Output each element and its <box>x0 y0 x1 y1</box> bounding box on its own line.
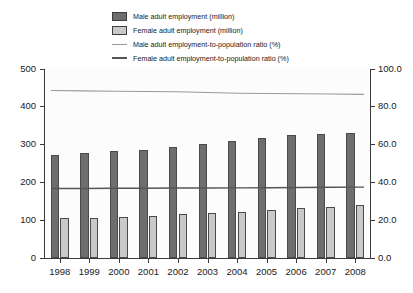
y2-tick-label-20.0: 20.0 <box>378 215 413 225</box>
lines-layer <box>45 69 370 258</box>
y2-tick-label-100.0: 100.0 <box>378 64 413 74</box>
y2-tick-20.0 <box>371 220 375 221</box>
y2-tick-80.0 <box>371 106 375 107</box>
y2-tick-100.0 <box>371 69 375 70</box>
y2-tick-label-80.0: 80.0 <box>378 101 413 111</box>
y-tick-400 <box>40 106 44 107</box>
line-male-ratio <box>51 91 364 95</box>
legend-item-female-ratio: Female adult employment-to-population ra… <box>112 52 289 64</box>
y2-tick-label-40.0: 40.0 <box>378 177 413 187</box>
y-tick-0 <box>40 258 44 259</box>
y-tick-label-500: 500 <box>2 64 36 74</box>
legend-label-female-employment: Female adult employment (million) <box>133 26 243 35</box>
y2-tick-label-0.0: 0.0 <box>378 253 413 263</box>
legend-swatch-male-employment <box>112 12 127 21</box>
axis-left-spine <box>44 69 45 259</box>
legend-item-male-employment: Male adult employment (million) <box>112 10 289 22</box>
x-tick-2002 <box>178 259 179 263</box>
y2-tick-0.0 <box>371 258 375 259</box>
axis-right-spine <box>370 69 371 259</box>
legend-label-male-ratio: Male adult employment-to-population rati… <box>133 40 280 49</box>
legend-line-female-ratio <box>112 54 127 63</box>
y-tick-100 <box>40 220 44 221</box>
x-tick-1998 <box>60 259 61 263</box>
legend-label-male-employment: Male adult employment (million) <box>133 12 234 21</box>
legend-item-male-ratio: Male adult employment-to-population rati… <box>112 38 289 50</box>
chart-legend: Male adult employment (million) Female a… <box>112 10 289 64</box>
x-tick-2007 <box>326 259 327 263</box>
x-tick-label-2008: 2008 <box>338 266 372 277</box>
x-tick-2005 <box>267 259 268 263</box>
chart-figure: Male adult employment (million) Female a… <box>0 0 413 293</box>
x-tick-1999 <box>89 259 90 263</box>
y-tick-label-0: 0 <box>2 253 36 263</box>
legend-line-male-ratio <box>112 40 127 49</box>
y2-tick-40.0 <box>371 182 375 183</box>
y-tick-500 <box>40 69 44 70</box>
y2-tick-60.0 <box>371 144 375 145</box>
y-tick-200 <box>40 182 44 183</box>
y-tick-label-100: 100 <box>2 215 36 225</box>
line-female-ratio <box>51 187 364 188</box>
x-tick-2003 <box>208 259 209 263</box>
x-tick-2008 <box>355 259 356 263</box>
y-tick-label-200: 200 <box>2 177 36 187</box>
legend-item-female-employment: Female adult employment (million) <box>112 24 289 36</box>
plot-area <box>45 69 370 258</box>
x-tick-2000 <box>119 259 120 263</box>
legend-label-female-ratio: Female adult employment-to-population ra… <box>133 54 289 63</box>
y-tick-300 <box>40 144 44 145</box>
x-tick-2001 <box>148 259 149 263</box>
x-tick-2004 <box>237 259 238 263</box>
y-tick-label-300: 300 <box>2 139 36 149</box>
legend-swatch-female-employment <box>112 26 127 35</box>
y-tick-label-400: 400 <box>2 101 36 111</box>
y2-tick-label-60.0: 60.0 <box>378 139 413 149</box>
x-tick-2006 <box>296 259 297 263</box>
